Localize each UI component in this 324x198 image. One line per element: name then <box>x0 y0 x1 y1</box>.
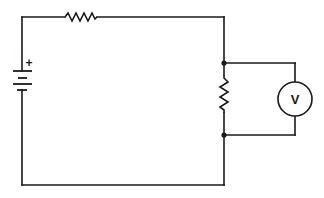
voltmeter-icon: V <box>278 82 312 116</box>
voltmeter-label: V <box>291 92 300 107</box>
circuit-diagram: V + <box>0 0 324 198</box>
battery-positive-label: + <box>25 56 32 70</box>
resistor-right-icon <box>220 75 228 113</box>
resistor-top-icon <box>65 13 97 21</box>
